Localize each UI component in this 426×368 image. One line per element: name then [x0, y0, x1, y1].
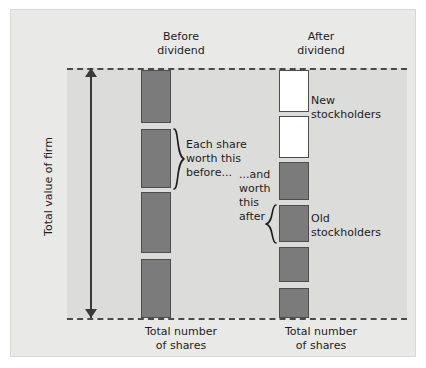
- bar-after-6-old: [279, 288, 309, 318]
- bar-after-2-new: [279, 116, 309, 158]
- axis-label-total-value-of-firm: Total value of firm: [42, 117, 55, 257]
- bar-after-4-old: [279, 205, 309, 242]
- bar-before-1: [141, 70, 171, 123]
- column-header-after-dividend: Afterdividend: [261, 30, 381, 58]
- bar-after-5-old: [279, 247, 309, 282]
- top-reference-line: [67, 68, 407, 70]
- legend-old-stockholders: Oldstockholders: [311, 212, 407, 240]
- annotation-after-brace: ...andworththisafter: [239, 168, 281, 224]
- brace-before-share: [172, 128, 186, 190]
- bar-before-2: [141, 129, 171, 188]
- bar-before-4: [141, 259, 171, 318]
- bottom-reference-line: [67, 318, 407, 320]
- column-header-before-dividend: Beforedividend: [121, 30, 241, 58]
- column-footer-before-shares: Total numberof shares: [116, 325, 246, 353]
- bar-before-3: [141, 192, 171, 253]
- column-footer-after-shares: Total numberof shares: [256, 325, 386, 353]
- bar-after-1-new: [279, 70, 309, 112]
- legend-new-stockholders: Newstockholders: [311, 94, 407, 122]
- dividend-dilution-diagram: Total value of firm Beforedividend After…: [0, 0, 426, 368]
- figure-canvas: Total value of firm Beforedividend After…: [10, 9, 416, 357]
- total-value-arrow: [90, 68, 92, 318]
- arrow-head-down-icon: [85, 309, 97, 318]
- bar-after-3-old: [279, 162, 309, 200]
- arrow-head-up-icon: [85, 68, 97, 77]
